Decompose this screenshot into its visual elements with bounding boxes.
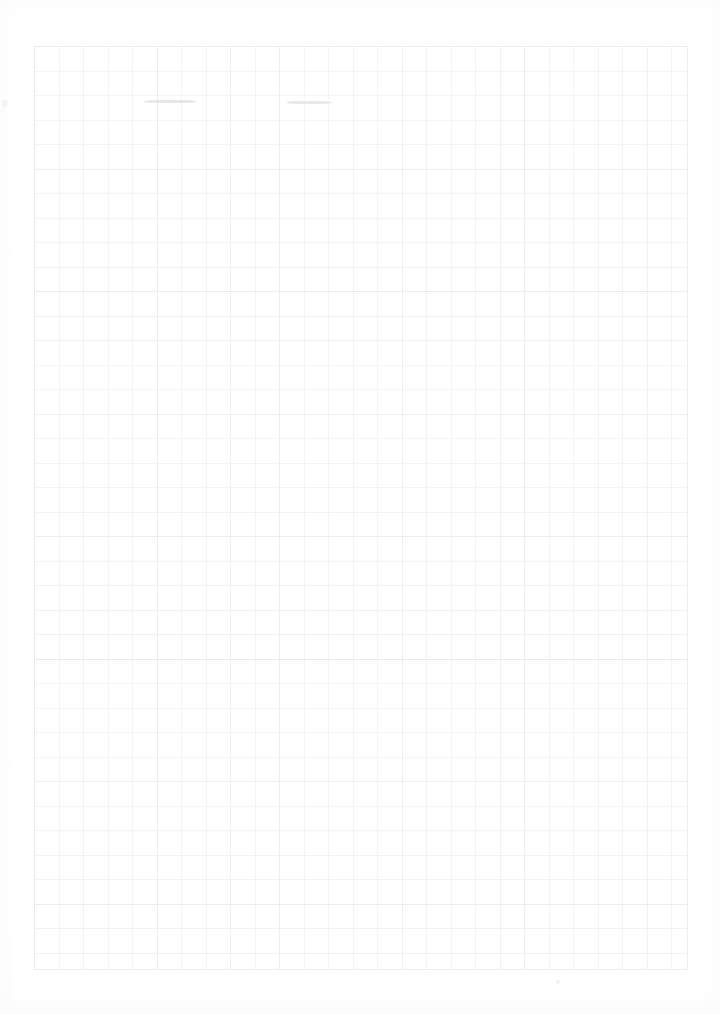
grid-paper-area (34, 46, 688, 970)
scan-speck-bottom (556, 980, 560, 984)
grid-canvas (34, 46, 688, 970)
scanned-page (0, 0, 720, 1014)
grid-lines (34, 46, 688, 970)
scan-speck-edge (2, 100, 7, 107)
